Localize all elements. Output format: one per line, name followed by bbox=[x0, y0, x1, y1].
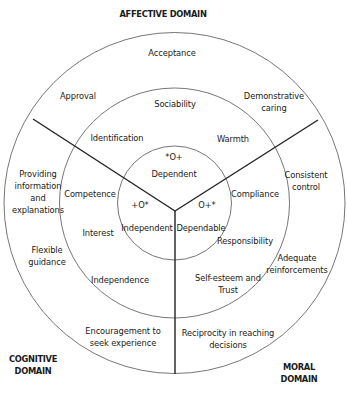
identification-label: Identification bbox=[91, 132, 144, 144]
adequate-reinforcements-line1: Adequate bbox=[266, 252, 327, 264]
flexible-guidance-line1: Flexible bbox=[28, 244, 65, 256]
moral-domain-label: MORAL DOMAIN bbox=[281, 361, 318, 385]
demonstrative-caring-line2: caring bbox=[244, 102, 304, 114]
providing-info-line2: information bbox=[12, 180, 64, 192]
self-esteem-line1: Self-esteem and bbox=[195, 272, 261, 284]
providing-info-line1: Providing bbox=[12, 168, 64, 180]
sociability-label: Sociability bbox=[154, 98, 196, 110]
encouragement-line2: seek experience bbox=[85, 337, 160, 349]
cognitive-domain-line2: DOMAIN bbox=[9, 365, 57, 377]
cognitive-domain-line1: COGNITIVE bbox=[9, 353, 57, 365]
demonstrative-caring-line1: Demonstrative bbox=[244, 90, 304, 102]
flexible-guidance-line2: guidance bbox=[28, 256, 65, 268]
providing-info-line4: explanations bbox=[12, 204, 64, 216]
independence-label: Independence bbox=[91, 274, 149, 286]
reciprocity-line2: decisions bbox=[182, 339, 275, 351]
consistent-control-label: Consistent control bbox=[285, 169, 328, 193]
independent-label: Independent bbox=[121, 222, 173, 234]
acceptance-label: Acceptance bbox=[148, 47, 195, 59]
dependent-label: Dependent bbox=[151, 168, 196, 180]
self-esteem-line2: Trust bbox=[195, 284, 261, 296]
reciprocity-line1: Reciprocity in reaching bbox=[182, 327, 275, 339]
providing-info-line3: and bbox=[12, 192, 64, 204]
providing-information-label: Providing information and explanations bbox=[12, 168, 64, 216]
adequate-reinforcements-label: Adequate reinforcements bbox=[266, 252, 327, 276]
competence-label: Competence bbox=[64, 188, 116, 200]
encouragement-label: Encouragement to seek experience bbox=[85, 325, 160, 349]
dependable-code-label: O+* bbox=[198, 199, 215, 211]
cognitive-domain-label: COGNITIVE DOMAIN bbox=[9, 353, 57, 377]
flexible-guidance-label: Flexible guidance bbox=[28, 244, 65, 268]
interest-label: Interest bbox=[82, 227, 113, 239]
encouragement-line1: Encouragement to bbox=[85, 325, 160, 337]
dependable-label: Dependable bbox=[176, 222, 225, 234]
moral-domain-line1: MORAL bbox=[281, 361, 318, 373]
affective-domain-label: AFFECTIVE DOMAIN bbox=[119, 8, 206, 20]
approval-label: Approval bbox=[60, 90, 96, 102]
self-esteem-trust-label: Self-esteem and Trust bbox=[195, 272, 261, 296]
responsibility-label: Responsibility bbox=[217, 235, 273, 247]
consistent-control-line1: Consistent bbox=[285, 169, 328, 181]
moral-domain-line2: DOMAIN bbox=[281, 373, 318, 385]
warmth-label: Warmth bbox=[217, 133, 249, 145]
adequate-reinforcements-line2: reinforcements bbox=[266, 264, 327, 276]
independent-code-label: +O* bbox=[131, 199, 148, 211]
reciprocity-label: Reciprocity in reaching decisions bbox=[182, 327, 275, 351]
consistent-control-line2: control bbox=[285, 181, 328, 193]
compliance-label: Compliance bbox=[231, 188, 279, 200]
demonstrative-caring-label: Demonstrative caring bbox=[244, 90, 304, 114]
dependent-code-label: *O+ bbox=[165, 151, 182, 163]
